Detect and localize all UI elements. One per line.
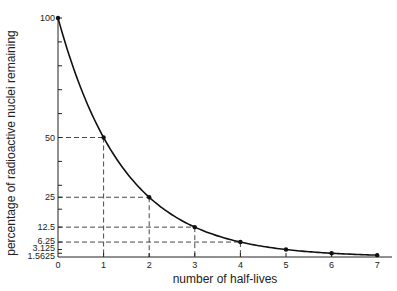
data-point <box>193 225 197 229</box>
data-point <box>284 247 288 251</box>
axes <box>58 17 392 257</box>
data-point <box>238 240 242 244</box>
y-tick-labels: 100502512.56.253.1251.5625 <box>27 13 55 261</box>
x-axis-title: number of half-lives <box>173 272 278 286</box>
y-tick-label: 50 <box>45 133 55 143</box>
data-point <box>375 253 379 257</box>
y-axis-title: percentage of radioactive nuclei remaini… <box>4 30 18 255</box>
x-tick-label: 7 <box>375 260 380 270</box>
decay-chart: 100502512.56.253.1251.5625 01234567 numb… <box>0 0 397 291</box>
y-tick-label: 100 <box>40 13 55 23</box>
decay-curve-path <box>58 18 377 255</box>
x-tick-label: 4 <box>238 260 243 270</box>
x-tick-label: 6 <box>329 260 334 270</box>
y-tick-label: 12.5 <box>37 222 55 232</box>
decay-curve <box>58 18 377 255</box>
data-point <box>329 251 333 255</box>
data-points <box>56 16 380 258</box>
x-tick-label: 0 <box>55 260 60 270</box>
x-tick-labels: 01234567 <box>55 260 379 270</box>
x-tick-label: 5 <box>283 260 288 270</box>
y-tick-label: 1.5625 <box>27 251 55 261</box>
y-tick-label: 25 <box>45 192 55 202</box>
x-tick-label: 1 <box>101 260 106 270</box>
data-point <box>56 16 60 20</box>
x-tick-label: 2 <box>147 260 152 270</box>
data-point <box>101 135 105 139</box>
x-tick-label: 3 <box>192 260 197 270</box>
data-point <box>147 195 151 199</box>
